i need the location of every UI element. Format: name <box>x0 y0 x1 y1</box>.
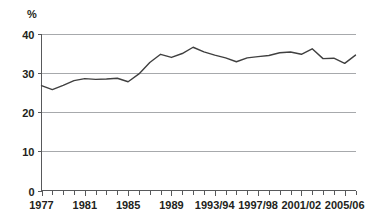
chart-container: % 010203040 19771981198519891993/941997/… <box>0 0 365 223</box>
x-tick-label: 1985 <box>116 199 140 211</box>
x-axis-tick-marks <box>43 191 357 196</box>
x-tick-label: 2001/02 <box>281 199 321 211</box>
x-tick-label: 1993/94 <box>195 199 236 211</box>
x-tick-label: 2005/06 <box>325 199 365 211</box>
x-tick-label: 1977 <box>29 199 53 211</box>
y-tick-label: 30 <box>22 68 34 80</box>
y-tick-label: 10 <box>22 146 34 158</box>
y-tick-label: 0 <box>28 186 34 198</box>
y-tick-label: 40 <box>22 29 34 41</box>
data-series-line <box>42 47 356 89</box>
x-tick-label: 1997/98 <box>238 199 278 211</box>
line-chart-plot: 010203040 19771981198519891993/941997/98… <box>0 0 365 223</box>
gridlines <box>42 35 356 152</box>
x-tick-label: 1981 <box>73 199 97 211</box>
y-axis-tick-labels: 010203040 <box>22 29 41 198</box>
x-tick-label: 1989 <box>159 199 183 211</box>
y-tick-label: 20 <box>22 107 34 119</box>
x-axis-tick-labels: 19771981198519891993/941997/982001/02200… <box>29 199 364 211</box>
